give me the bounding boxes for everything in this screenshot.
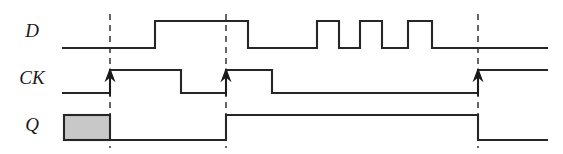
timing-diagram-figure: D CK Q: [0, 0, 563, 154]
signal-label-ck: CK: [19, 67, 46, 88]
signal-label-q: Q: [25, 114, 39, 135]
signal-label-d: D: [24, 20, 39, 41]
q-unknown-region: [64, 115, 110, 140]
timing-diagram-canvas: D CK Q: [0, 0, 563, 154]
